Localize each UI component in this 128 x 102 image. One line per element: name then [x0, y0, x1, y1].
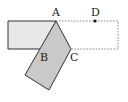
label-c: C	[70, 51, 78, 64]
geometry-diagram: A D B C	[0, 0, 128, 102]
label-b: B	[40, 51, 48, 64]
label-a: A	[51, 6, 61, 19]
label-d: D	[91, 6, 100, 19]
point-d-dot	[93, 19, 96, 22]
